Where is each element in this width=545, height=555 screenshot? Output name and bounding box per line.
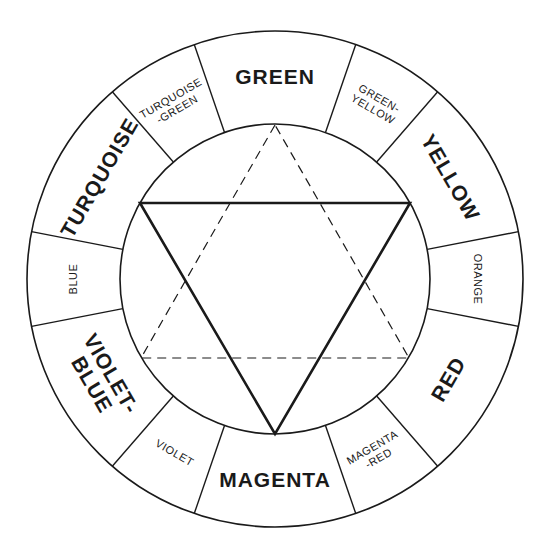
segment-divider — [427, 309, 518, 327]
segment-label-blue: BLUE — [66, 264, 78, 295]
segment-divider — [32, 309, 123, 327]
segment-label-violet: VIOLET — [154, 437, 196, 468]
solid-triangle — [140, 203, 410, 434]
inner-ring — [120, 124, 430, 434]
segment-label-orange: ORANGE — [472, 254, 484, 305]
outer-ring — [27, 31, 523, 527]
segment-label-magenta-red: MAGENTA-RED — [344, 428, 406, 478]
segment-label-turquoise-green: TURQUOISE-GREEN — [137, 75, 210, 131]
segment-label-turquoise: TURQUOISE — [55, 114, 142, 241]
segment-label-red: RED — [426, 353, 470, 406]
segment-label-violet-blue: VIOLET-BLUE — [61, 329, 144, 428]
dashed-triangle — [141, 125, 409, 358]
segment-label-yellow: YELLOW — [417, 130, 485, 224]
segment-dividers — [32, 45, 519, 514]
segment-label-magenta: MAGENTA — [219, 467, 331, 490]
color-wheel-diagram: GREENTURQUOISE-GREENTURQUOISEBLUEVIOLET-… — [0, 0, 545, 555]
segment-divider — [427, 232, 518, 250]
segment-label-green-yellow: GREEN-YELLOW — [349, 81, 404, 127]
segment-label-green: GREEN — [235, 64, 315, 87]
segment-divider — [325, 45, 355, 133]
